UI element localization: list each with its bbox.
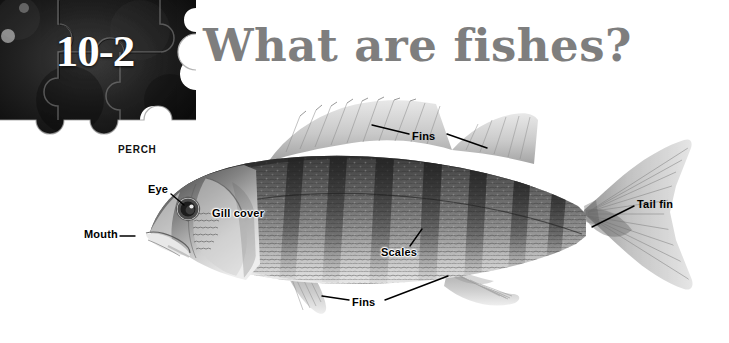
specimen-caption: PERCH (118, 144, 157, 155)
section-number: 10-2 (25, 25, 165, 77)
tail-fin (584, 139, 693, 289)
callout-label-eye: Eye (148, 183, 168, 195)
callout-label-fins-top: Fins (412, 130, 435, 142)
callout-label-tail-fin: Tail fin (637, 198, 673, 210)
textbook-page: 10-2 What are fishes? PERCH Fins Tail fi… (0, 0, 729, 343)
dorsal-fin-soft (452, 113, 538, 164)
puzzle-piece-header: 10-2 (0, 0, 196, 140)
callout-label-gill-cover: Gill cover (212, 207, 264, 219)
callout-label-fins-bottom: Fins (352, 296, 375, 308)
page-title: What are fishes? (203, 18, 632, 74)
callout-label-scales: Scales (381, 246, 417, 258)
leader-fins-bottom-left (322, 296, 349, 300)
callout-label-mouth: Mouth (84, 228, 118, 240)
